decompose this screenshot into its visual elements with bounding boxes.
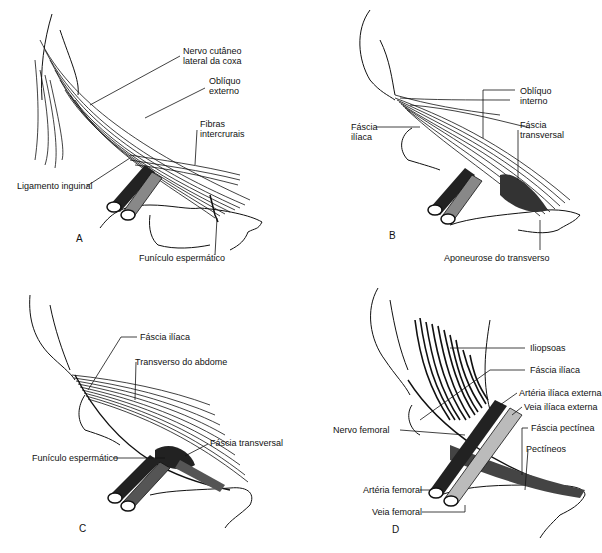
panel-b-illustration bbox=[300, 0, 601, 280]
label-funiculo-espermatico: Funículo espermático bbox=[32, 453, 118, 463]
label-line2: interno bbox=[520, 96, 552, 106]
panel-b: Oblíquo interno Fáscia ilíaca Fáscia tra… bbox=[300, 0, 601, 280]
panel-d-illustration bbox=[300, 280, 601, 553]
label-line1: Fibras bbox=[200, 119, 245, 129]
label-obliquo-interno: Oblíquo interno bbox=[520, 86, 552, 106]
label-veia-iliaca-externa: Veia ilíaca externa bbox=[524, 402, 598, 412]
label-transverso-abdome: Transverso do abdome bbox=[135, 357, 227, 367]
label-veia-femoral: Veia femoral bbox=[372, 507, 422, 517]
label-iliopsoas: Iliopsoas bbox=[530, 343, 566, 353]
label-funiculo-espermatico: Funículo espermático bbox=[139, 253, 225, 263]
panel-a: Nervo cutâneo lateral da coxa Oblíquo ex… bbox=[0, 0, 300, 280]
panel-c: Fáscia ilíaca Transverso do abdome Fásci… bbox=[0, 280, 300, 553]
label-line2: ilíaca bbox=[351, 132, 378, 142]
label-line1: Fáscia bbox=[351, 122, 378, 132]
label-fascia-iliaca: Fáscia ilíaca bbox=[530, 365, 580, 375]
label-fascia-pectinea: Fáscia pectínea bbox=[531, 423, 595, 433]
label-line1: Oblíquo bbox=[209, 76, 241, 86]
label-nervo-cutaneo: Nervo cutâneo lateral da coxa bbox=[183, 46, 242, 66]
label-line2: transversal bbox=[520, 130, 564, 140]
label-pectineos: Pectíneos bbox=[526, 444, 566, 454]
panel-letter: A bbox=[76, 233, 83, 244]
label-fascia-transversal: Fáscia transversal bbox=[520, 120, 564, 140]
label-fascia-transversal: Fáscia transversal bbox=[210, 438, 283, 448]
label-line2: lateral da coxa bbox=[183, 56, 242, 66]
label-aponeurose-transverso: Aponeurose do transverso bbox=[444, 253, 550, 263]
label-obliquo-externo: Oblíquo externo bbox=[209, 76, 241, 96]
panel-c-illustration bbox=[0, 280, 300, 553]
label-fascia-iliaca: Fáscia ilíaca bbox=[351, 122, 378, 142]
label-arteria-iliaca-externa: Artéria ilíaca externa bbox=[519, 388, 602, 398]
label-fascia-iliaca: Fáscia ilíaca bbox=[140, 332, 190, 342]
label-arteria-femoral: Artéria femoral bbox=[363, 485, 422, 495]
label-line2: externo bbox=[209, 86, 241, 96]
panel-d: Iliopsoas Fáscia ilíaca Artéria ilíaca e… bbox=[300, 280, 601, 553]
label-line2: intercrurais bbox=[200, 129, 245, 139]
label-nervo-femoral: Nervo femoral bbox=[333, 425, 390, 435]
panel-letter: D bbox=[392, 524, 399, 535]
label-fibras-intercrurais: Fibras intercrurais bbox=[200, 119, 245, 139]
label-line1: Nervo cutâneo bbox=[183, 46, 242, 56]
panel-letter: C bbox=[79, 523, 86, 534]
panel-letter: B bbox=[389, 230, 396, 241]
panel-a-illustration bbox=[0, 0, 300, 280]
label-line1: Oblíquo bbox=[520, 86, 552, 96]
label-ligamento-inguinal: Ligamento inguinal bbox=[17, 181, 93, 191]
label-line1: Fáscia bbox=[520, 120, 564, 130]
